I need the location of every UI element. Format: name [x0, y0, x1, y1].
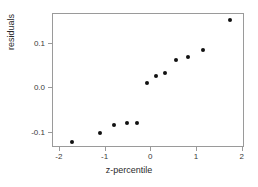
x-tick-label: 1	[194, 152, 198, 161]
x-tick-mark	[59, 147, 60, 151]
data-point	[201, 48, 205, 52]
plot-area	[52, 13, 244, 147]
y-tick-label: 0.1	[34, 39, 45, 48]
data-point	[125, 121, 129, 125]
data-point	[145, 81, 149, 85]
x-tick-label: 2	[239, 152, 243, 161]
x-tick-mark	[196, 147, 197, 151]
x-axis-label: z-percentile	[0, 165, 258, 175]
data-point	[98, 131, 102, 135]
data-point	[112, 123, 116, 127]
qq-plot-figure: residuals z-percentile 0.10.0-0.1 -2-101…	[0, 0, 258, 187]
data-point	[154, 74, 158, 78]
y-tick-label: 0.0	[34, 83, 45, 92]
x-tick-mark	[105, 147, 106, 151]
data-point	[174, 58, 178, 62]
y-tick-label: -0.1	[31, 127, 45, 136]
data-point	[228, 18, 232, 22]
x-tick-mark	[242, 147, 243, 151]
x-tick-label: -2	[55, 152, 62, 161]
x-tick-label: 0	[148, 152, 152, 161]
x-tick-label: -1	[101, 152, 108, 161]
x-tick-mark	[150, 147, 151, 151]
data-point	[163, 71, 167, 75]
data-point	[70, 140, 74, 144]
y-axis-label: residuals	[6, 0, 16, 50]
data-point	[135, 121, 139, 125]
data-point	[186, 55, 190, 59]
scatter-series	[53, 14, 243, 146]
